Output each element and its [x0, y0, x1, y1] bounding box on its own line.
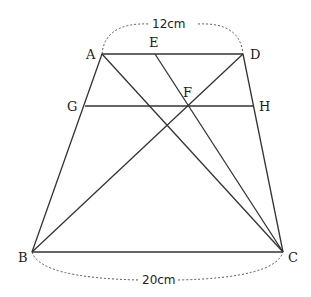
- trapezoid-diagram: A D E F G H B C 12cm 20cm: [0, 0, 311, 297]
- segment-BD: [32, 54, 243, 252]
- bottom-dimension-label: 20cm: [142, 273, 176, 287]
- label-F: F: [183, 85, 192, 100]
- segment-DC: [243, 54, 283, 252]
- segment-AC: [102, 54, 283, 252]
- label-E: E: [149, 35, 159, 50]
- label-H: H: [259, 99, 270, 114]
- label-G: G: [67, 99, 77, 114]
- label-D: D: [250, 47, 260, 62]
- label-A: A: [85, 47, 96, 62]
- top-dimension-label: 12cm: [152, 17, 186, 31]
- label-B: B: [18, 250, 28, 265]
- segment-EC: [155, 54, 283, 252]
- segment-AB: [32, 54, 102, 252]
- label-C: C: [288, 250, 298, 265]
